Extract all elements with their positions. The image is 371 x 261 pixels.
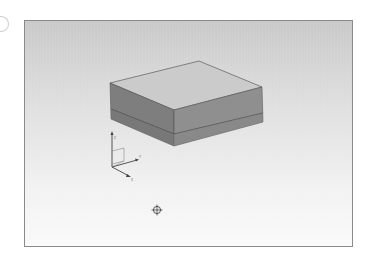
triad-z-label: Z — [114, 136, 116, 140]
triad-y-label: Y — [139, 155, 141, 159]
triad-x-axis — [112, 167, 129, 176]
triad-x-label: X — [131, 178, 133, 182]
scene-canvas[interactable]: Z Y X — [25, 21, 353, 247]
window-edge-mark — [0, 16, 9, 32]
box-model[interactable] — [110, 61, 263, 146]
3d-viewport[interactable]: Z Y X — [24, 20, 353, 247]
triad-plane-box — [112, 148, 124, 164]
triad-y-axis — [112, 160, 137, 167]
triad-z-arrow-icon — [111, 131, 114, 135]
crosshair-icon[interactable] — [152, 205, 163, 216]
axis-triad: Z Y X — [111, 131, 142, 182]
